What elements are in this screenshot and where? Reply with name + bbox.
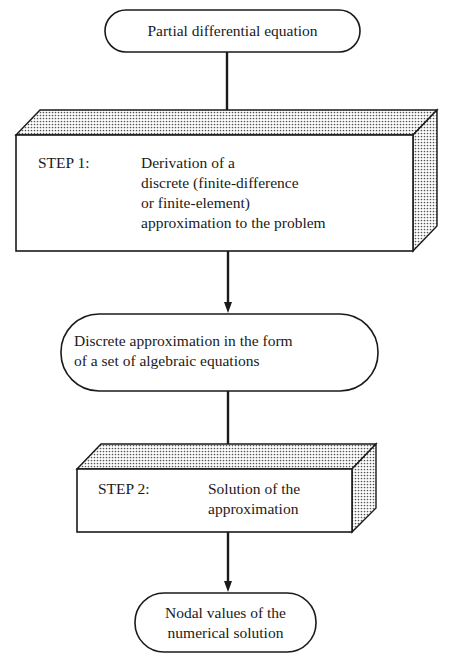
start-terminal-label: Partial differential equation (105, 21, 360, 41)
step2-line-1: Solution of the (208, 479, 300, 499)
step1-description: Derivation of a discrete (finite-differe… (141, 153, 326, 233)
step2-label: STEP 2: (98, 479, 150, 499)
step1-line-2: discrete (finite-difference (141, 173, 326, 193)
step2-step-label: STEP 2: (98, 480, 150, 497)
intermediate-terminal-label: Discrete approximation in the form of a … (74, 331, 293, 371)
arrowhead-icon (224, 581, 232, 592)
step1-line-3: or finite-element) (141, 193, 326, 213)
step1-line-1: Derivation of a (141, 153, 326, 173)
step1-line-4: approximation to the problem (141, 213, 326, 233)
arrowhead-icon (224, 302, 232, 313)
step1-top-face (16, 110, 437, 135)
end-line-2: numerical solution (135, 623, 316, 643)
step1-side-face (413, 110, 437, 251)
end-terminal-label: Nodal values of the numerical solution (135, 603, 316, 643)
intermediate-line-1: Discrete approximation in the form (74, 331, 293, 351)
step2-line-2: approximation (208, 499, 300, 519)
intermediate-line-2: of a set of algebraic equations (74, 351, 293, 371)
step2-top-face (77, 444, 376, 469)
step2-description: Solution of the approximation (208, 479, 300, 519)
step1-label: STEP 1: (38, 153, 90, 173)
step1-step-label: STEP 1: (38, 154, 90, 171)
end-line-1: Nodal values of the (135, 603, 316, 623)
start-line-1: Partial differential equation (147, 22, 317, 39)
